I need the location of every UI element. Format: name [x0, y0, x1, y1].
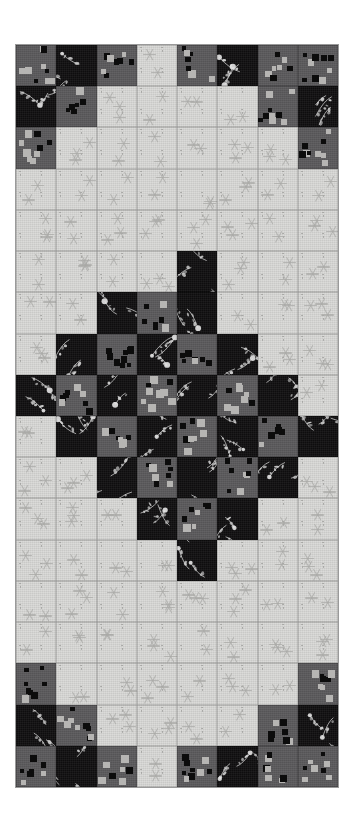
quilt-patch-r13-c6: [258, 581, 298, 622]
snowflake-motif: [69, 691, 82, 704]
dot-dark: [69, 104, 75, 110]
dot-light: [320, 685, 325, 690]
quilt-patch-r13-c0: [16, 581, 56, 622]
snowflake-motif: [113, 100, 126, 113]
snowflake-motif: [227, 650, 240, 663]
snowflake-motif: [279, 346, 292, 359]
quilt-patch-r11-c0: [16, 498, 56, 539]
quilt-patch-r9-c4: [177, 416, 217, 457]
snowflake-motif: [187, 138, 200, 151]
quilt-patch-r7-c7: [298, 334, 338, 375]
quilt-patch-r10-c6: [258, 457, 298, 498]
quilt-patch-r12-c1: [56, 540, 96, 581]
snowflake-motif: [193, 674, 206, 687]
dot-light: [68, 718, 73, 723]
dot-light: [319, 77, 326, 84]
snowflake-motif: [37, 517, 50, 530]
dot-dark: [71, 109, 76, 114]
snowflake-motif: [39, 625, 52, 638]
dot-dark: [86, 726, 92, 732]
dot-dark: [188, 52, 193, 57]
dot-dark: [225, 458, 230, 463]
quilt-patch-r15-c3: [137, 663, 177, 704]
snowflake-motif: [148, 727, 161, 740]
snowflake-motif: [100, 628, 113, 641]
snowflake-motif: [277, 517, 290, 530]
snowflake-motif: [151, 66, 164, 79]
snowflake-motif: [315, 379, 328, 392]
dot-dark: [87, 736, 92, 741]
dot-dark: [66, 108, 71, 113]
quilt-patch-r2-c6: [258, 127, 298, 168]
snowflake-motif: [311, 523, 324, 536]
snowflake-motif: [35, 347, 48, 360]
quilt-patch-r7-c2: [97, 334, 137, 375]
quilt-patch-r15-c2: [97, 663, 137, 704]
dot-dark: [258, 118, 262, 122]
quilt-patch-r16-c7: [298, 705, 338, 746]
snowflake-motif: [153, 272, 166, 285]
dot-light: [184, 50, 190, 56]
quilt-patch-r6-c1: [56, 292, 96, 333]
snowflake-motif: [143, 48, 156, 61]
snowflake-motif: [234, 262, 247, 275]
quilt-patch-r2-c0: [16, 127, 56, 168]
quilt-patch-r4-c2: [97, 210, 137, 251]
dot-dark: [268, 736, 274, 742]
dot-light: [184, 776, 189, 781]
dot-dark: [83, 723, 90, 730]
snowflake-motif: [278, 298, 291, 311]
quilt-patch-r1-c5: [217, 86, 257, 127]
quilt-patch-r8-c3: [137, 375, 177, 416]
dot-light: [150, 376, 158, 384]
snowflake-motif: [245, 563, 258, 576]
snowflake-motif: [31, 512, 44, 525]
quilt-patch-r1-c4: [177, 86, 217, 127]
dot-dark: [26, 688, 31, 693]
dot-light: [324, 761, 330, 767]
quilt-patch-r5-c4: [177, 251, 217, 292]
dot-dark: [71, 109, 76, 114]
snowflake-motif: [271, 597, 284, 610]
snowflake-motif: [154, 155, 167, 168]
dot-dark: [280, 719, 287, 726]
dot-light: [272, 66, 277, 71]
quilt-patch-r5-c0: [16, 251, 56, 292]
dot-light: [74, 384, 82, 392]
dot-light: [289, 89, 294, 94]
dot-dark: [283, 737, 290, 744]
snowflake-motif: [139, 227, 152, 240]
dot-light: [326, 129, 331, 134]
dot-dark: [129, 59, 135, 65]
quilt-patch-r11-c3: [137, 498, 177, 539]
snowflake-motif: [269, 638, 282, 651]
dot-dark: [167, 379, 174, 386]
dot-dark: [120, 363, 125, 368]
dot-light: [45, 78, 51, 84]
dot-dark: [42, 682, 46, 686]
snowflake-motif: [308, 220, 321, 233]
dot-light: [286, 738, 293, 745]
dot-light: [34, 151, 40, 157]
snowflake-motif: [75, 568, 88, 581]
snowflake-motif: [61, 482, 74, 495]
snowflake-motif: [260, 598, 273, 611]
snowflake-motif: [106, 275, 119, 288]
quilt-grid: [16, 45, 338, 787]
dot-dark: [321, 752, 325, 756]
dot-dark: [123, 350, 128, 355]
dot-light: [236, 383, 242, 389]
snowflake-motif: [43, 295, 56, 308]
snowflake-motif: [120, 676, 133, 689]
dot-dark: [146, 383, 150, 387]
quilt-patch-r2-c1: [56, 127, 96, 168]
quilt-patch-r17-c2: [97, 746, 137, 787]
dot-light: [311, 765, 318, 772]
dot-dark: [166, 473, 171, 478]
quilt-patch-r8-c1: [56, 375, 96, 416]
dot-dark: [312, 75, 319, 82]
snowflake-motif: [316, 649, 329, 662]
floral-vine-motif: [97, 292, 137, 333]
dot-dark: [106, 348, 112, 354]
snowflake-motif: [143, 114, 156, 127]
